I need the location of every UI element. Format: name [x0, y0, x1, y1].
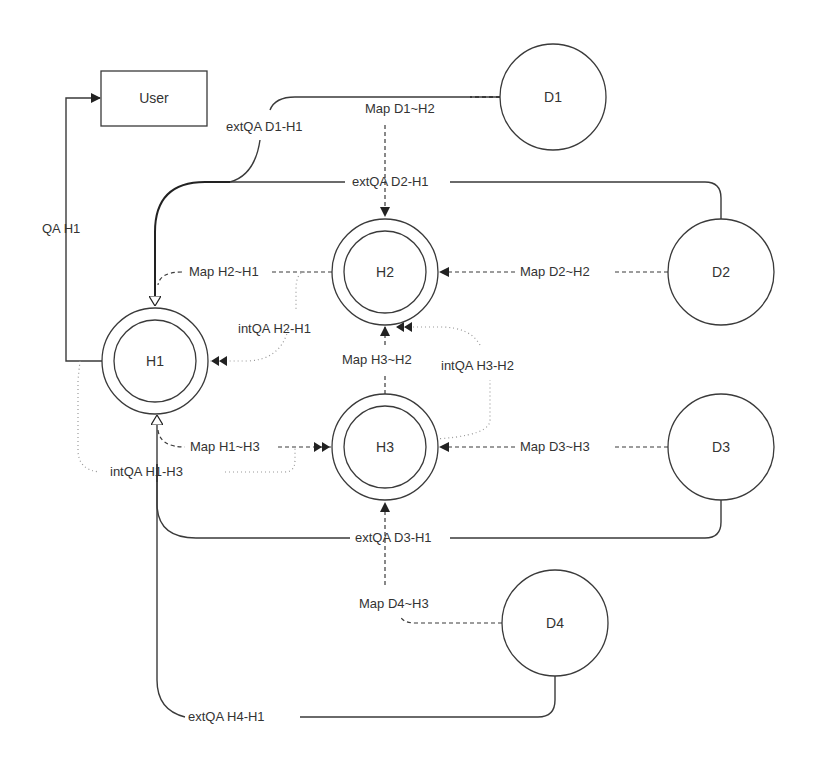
node-user-label: User — [139, 90, 169, 106]
label-map-h3-h2: Map H3~H2 — [342, 352, 412, 367]
node-d3[interactable]: D3 — [668, 394, 774, 500]
label-qa-h1: QA H1 — [42, 221, 80, 236]
label-extqa-d3-h1: extQA D3-H1 — [355, 530, 432, 545]
label-extqa-d1-h1: extQA D1-H1 — [226, 119, 303, 134]
label-extqa-h4-h1: extQA H4-H1 — [188, 709, 265, 724]
label-intqa-h1-h3: intQA H1-H3 — [110, 464, 183, 479]
label-map-d1-h2: Map D1~H2 — [365, 101, 435, 116]
node-h2-label: H2 — [376, 264, 394, 280]
node-h3-label: H3 — [376, 439, 394, 455]
label-intqa-h2-h1: intQA H2-H1 — [238, 321, 311, 336]
label-map-d4-h3: Map D4~H3 — [359, 596, 429, 611]
edge-extqa-d2-h1 — [230, 182, 721, 219]
edge-extqa-d3-h1 — [157, 470, 721, 538]
label-map-d2-h2: Map D2~H2 — [520, 264, 590, 279]
node-h1-label: H1 — [146, 353, 164, 369]
edge-intqa-h2-h1 — [210, 272, 305, 361]
node-h3[interactable]: H3 — [332, 394, 438, 500]
label-map-h1-h3: Map H1~H3 — [190, 439, 260, 454]
node-d4[interactable]: D4 — [502, 570, 608, 676]
node-h2[interactable]: H2 — [332, 219, 438, 325]
node-user[interactable]: User — [101, 71, 207, 126]
label-map-h2-h1: Map H2~H1 — [189, 264, 259, 279]
node-d3-label: D3 — [712, 439, 730, 455]
label-extqa-d2-h1: extQA D2-H1 — [352, 174, 429, 189]
node-d1-label: D1 — [544, 89, 562, 105]
node-d2[interactable]: D2 — [668, 219, 774, 325]
node-d4-label: D4 — [546, 615, 564, 631]
node-h1[interactable]: H1 — [102, 308, 208, 414]
label-intqa-h3-h2: intQA H3-H2 — [441, 358, 514, 373]
diagram-canvas: User H1 H2 H3 D1 D2 D3 D4 QA H1 extQA D1… — [0, 0, 813, 758]
node-d1[interactable]: D1 — [500, 44, 606, 150]
node-d2-label: D2 — [712, 264, 730, 280]
label-map-d3-h3: Map D3~H3 — [520, 439, 590, 454]
